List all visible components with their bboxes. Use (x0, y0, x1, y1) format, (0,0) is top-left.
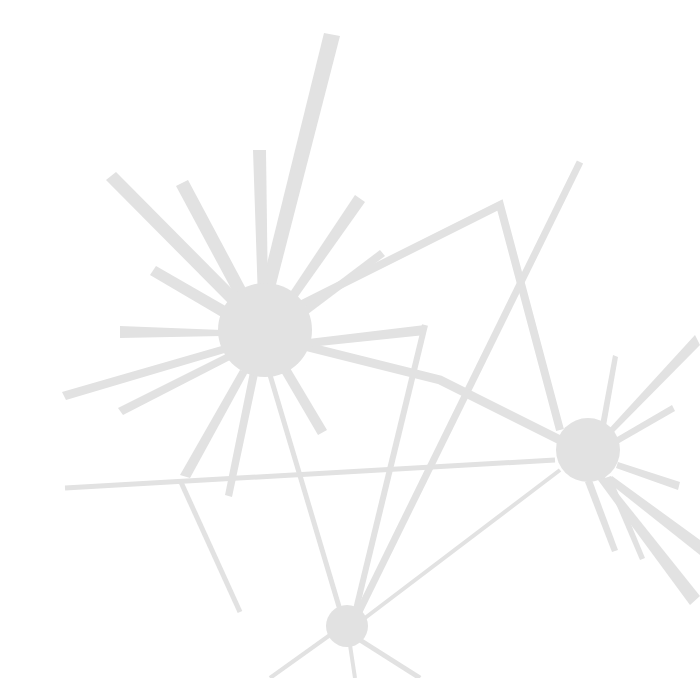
connector-line (300, 205, 560, 430)
connector-line (300, 345, 560, 440)
ray (258, 33, 340, 300)
right-hub-circle (556, 418, 620, 482)
connector-line (65, 460, 555, 488)
connector-line (180, 480, 240, 612)
ray (300, 325, 425, 348)
ray (253, 150, 268, 300)
ray (600, 355, 618, 426)
ray (298, 250, 385, 320)
connector-line (270, 635, 330, 678)
connector-line (350, 645, 355, 678)
ray (612, 405, 675, 446)
large-hub-circle (218, 283, 312, 377)
abstract-network-graphic (0, 0, 700, 678)
ray (616, 462, 680, 490)
ray (120, 326, 222, 338)
bottom-hub-circle (326, 605, 368, 647)
connector-line (360, 640, 420, 678)
starburst-network-illustration (0, 0, 700, 678)
